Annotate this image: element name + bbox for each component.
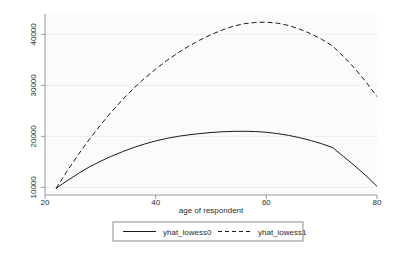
lowess-plot-figure: 10000200003000040000 20406080 age of res…	[0, 0, 404, 259]
chart-canvas: 10000200003000040000 20406080 age of res…	[0, 0, 404, 259]
legend-label-yhat_lowess0: yhat_lowess0	[163, 228, 212, 237]
y-tick-label: 10000	[29, 176, 38, 199]
x-tick-label: 40	[151, 198, 160, 207]
x-tick-label: 60	[262, 198, 271, 207]
y-tick-label: 40000	[29, 23, 38, 46]
x-tick-label: 80	[373, 198, 382, 207]
y-tick-label: 30000	[29, 74, 38, 97]
x-tick-label: 20	[41, 198, 50, 207]
chart-legend: yhat_lowess0yhat_lowess1	[113, 222, 307, 241]
y-tick-label: 20000	[29, 125, 38, 148]
legend-label-yhat_lowess1: yhat_lowess1	[258, 228, 307, 237]
x-axis-title: age of respondent	[179, 206, 244, 215]
plot-area-background	[45, 14, 377, 195]
